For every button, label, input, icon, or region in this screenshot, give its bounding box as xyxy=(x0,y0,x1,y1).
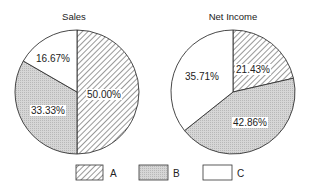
net-income-title: Net Income xyxy=(209,11,258,22)
legend: A B C xyxy=(76,165,244,180)
legend-label-c: C xyxy=(237,168,244,179)
legend-item-c: C xyxy=(203,165,244,180)
slice-label-a: 50.00% xyxy=(87,89,121,100)
legend-swatch-a xyxy=(76,165,103,180)
slice-label-c: 35.71% xyxy=(185,71,219,82)
slice-label-c: 16.67% xyxy=(36,53,70,64)
slice-label-a: 21.43% xyxy=(236,64,270,75)
pie-charts: Sales 50.00%33.33%16.67% Net Income 21.4… xyxy=(0,0,310,192)
sales-title: Sales xyxy=(62,11,86,22)
legend-label-b: B xyxy=(173,168,180,179)
legend-swatch-c xyxy=(203,165,232,180)
legend-item-b: B xyxy=(139,165,180,180)
legend-swatch-b xyxy=(139,165,168,180)
slice-label-b: 33.33% xyxy=(31,105,65,116)
sales-pie: Sales 50.00%33.33%16.67% xyxy=(15,11,139,154)
net-income-pie: Net Income 21.43%42.86%35.71% xyxy=(171,11,295,154)
legend-label-a: A xyxy=(110,168,117,179)
slice-label-b: 42.86% xyxy=(233,117,267,128)
legend-item-a: A xyxy=(76,165,117,180)
